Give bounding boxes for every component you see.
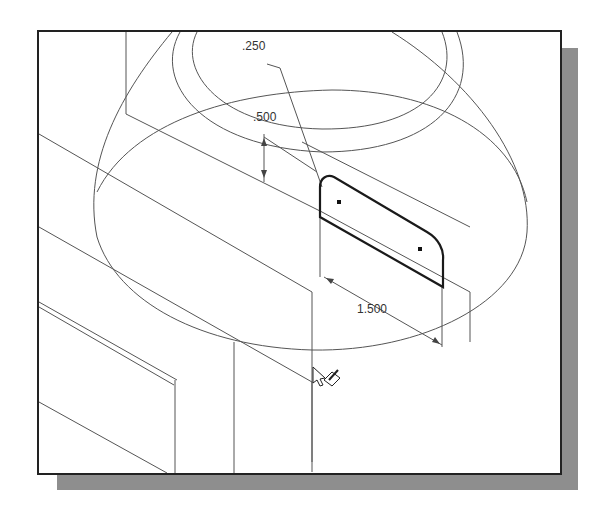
center-point-1 <box>337 200 341 204</box>
sketch-profile <box>320 176 443 287</box>
pointer-with-pencil-icon <box>313 367 340 386</box>
center-point-2 <box>418 247 422 251</box>
lower-edge-2 <box>39 402 167 473</box>
plate-edge-3 <box>39 134 312 292</box>
dim-250-leader <box>267 64 322 187</box>
dim-height-label[interactable]: .500 <box>253 110 276 124</box>
dim-length-label[interactable]: 1.500 <box>357 302 387 316</box>
plate-edge-4 <box>39 227 312 382</box>
outer-dome-arc <box>94 32 527 350</box>
plate-edge-1 <box>126 32 470 342</box>
base-ellipse-arc <box>97 90 527 202</box>
lower-edge-1 <box>39 302 177 380</box>
inner-ring-1 <box>172 32 463 152</box>
inner-ring-2 <box>192 32 447 129</box>
graphics-viewport[interactable]: .250 .500 1.500 <box>37 30 562 475</box>
dim-radius-label[interactable]: .250 <box>242 39 265 53</box>
model-wireframe <box>39 32 560 473</box>
